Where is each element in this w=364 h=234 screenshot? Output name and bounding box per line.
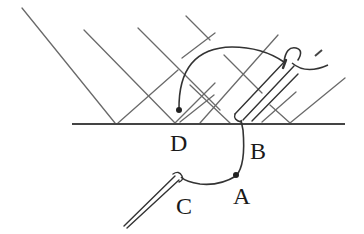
label-c: C <box>176 194 192 218</box>
point-d-dot <box>176 107 182 113</box>
point-a-dot <box>233 172 239 178</box>
label-d: D <box>170 131 187 155</box>
motion-tick-icon <box>315 50 322 56</box>
upper-needle <box>235 48 301 122</box>
thread-tail <box>292 63 328 70</box>
label-a: A <box>233 184 250 208</box>
label-b: B <box>250 139 266 163</box>
lower-needle <box>124 172 183 228</box>
